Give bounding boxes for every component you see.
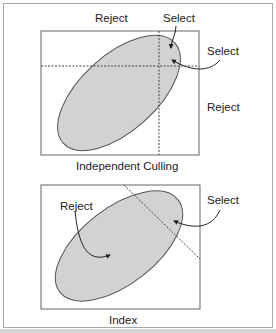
panel-independent-culling: Reject Select Select Reject Independent … [38,12,241,172]
label-reject: Reject [60,200,93,212]
label-select-top: Select [163,12,196,24]
diagram-canvas: Reject Select Select Reject Independent … [0,0,276,333]
label-select-right: Select [207,45,240,57]
panel-index: Reject Select Index [37,170,240,326]
caption-index: Index [109,314,137,326]
label-reject-right: Reject [207,101,240,113]
caption-independent-culling: Independent Culling [76,160,178,172]
label-reject-top: Reject [95,12,128,24]
label-select: Select [207,194,240,206]
